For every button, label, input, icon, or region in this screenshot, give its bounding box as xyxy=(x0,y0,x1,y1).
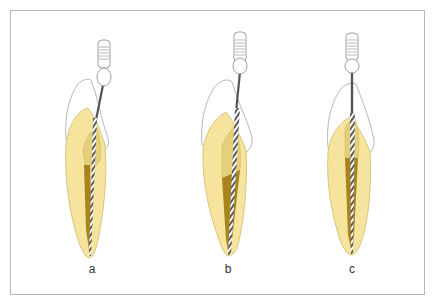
tooth-b xyxy=(202,32,253,256)
file-handle-b xyxy=(233,32,247,74)
tooth-diagram xyxy=(0,0,438,306)
tooth-a xyxy=(66,40,111,258)
file-handle-c xyxy=(345,33,359,73)
panel-label-b: b xyxy=(225,262,232,276)
file-handle-a xyxy=(97,40,111,86)
panel-label-c: c xyxy=(349,262,355,276)
tooth-c xyxy=(328,33,375,255)
panel-label-a: a xyxy=(89,262,96,276)
